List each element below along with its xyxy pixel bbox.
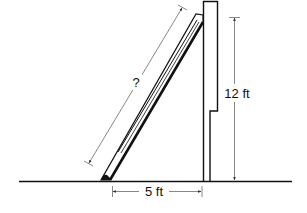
base-distance-label: 5 ft — [145, 184, 163, 199]
wall-height-label: 12 ft — [224, 86, 250, 101]
wall-height-dimension: 12 ft — [220, 18, 254, 181]
ladder — [101, 14, 203, 180]
wall — [204, 2, 218, 182]
base-distance-dimension: 5 ft — [113, 183, 203, 199]
ladder-diagram: ? 12 ft 5 ft — [0, 0, 307, 213]
ladder-length-dimension: ? — [84, 5, 187, 166]
ladder-length-label: ? — [132, 75, 139, 90]
